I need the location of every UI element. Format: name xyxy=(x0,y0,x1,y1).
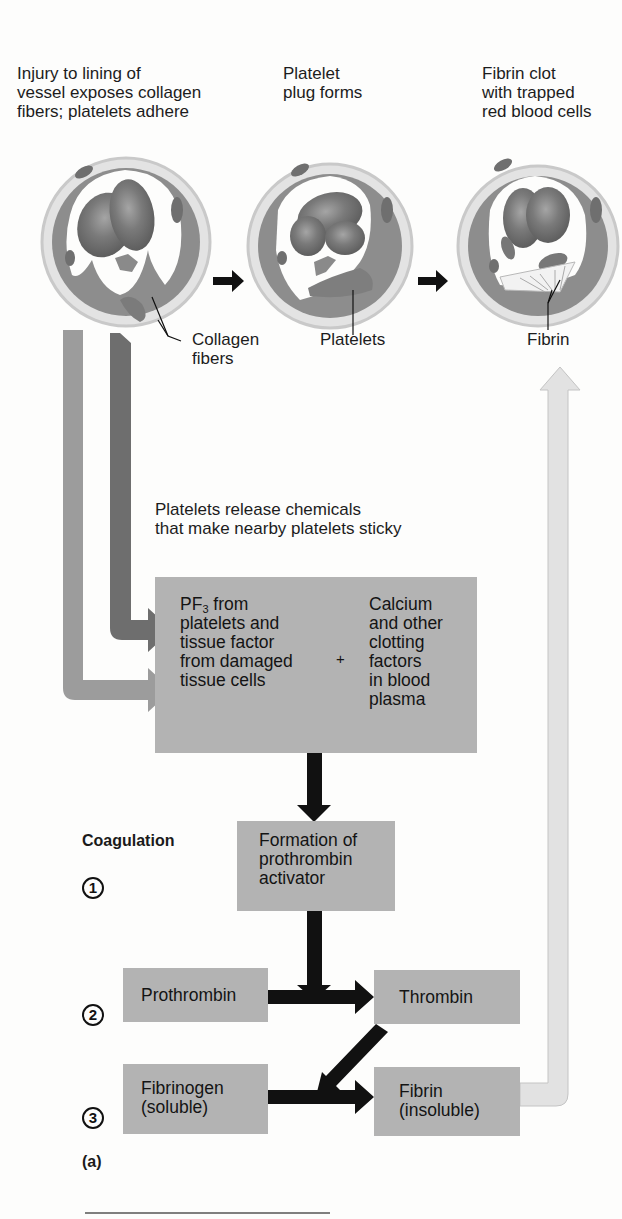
label-collagen-fibers: Collagen fibers xyxy=(192,330,259,368)
factors-line: factors xyxy=(369,652,443,671)
step-number-3: 3 xyxy=(82,1107,104,1129)
vessel-fibrin-clot-illustration xyxy=(458,156,618,326)
factors-line: platelets and xyxy=(180,614,293,633)
note-line: Platelets release chemicals xyxy=(155,500,402,519)
factors-line: plasma xyxy=(369,690,443,709)
factors-line: in blood xyxy=(369,671,443,690)
box-prothrombin: Prothrombin xyxy=(123,968,268,1022)
label-line: fibers xyxy=(192,349,259,368)
box-line: Prothrombin xyxy=(141,986,268,1005)
box-line: (insoluble) xyxy=(399,1101,520,1120)
arrow-factors-to-activator xyxy=(297,753,331,822)
pf-suffix: from xyxy=(209,594,249,614)
box-line: Formation of xyxy=(259,831,395,850)
box-line: Fibrin xyxy=(399,1082,520,1101)
caption-stage-platelet-plug: Platelet plug forms xyxy=(283,64,362,102)
box-thrombin: Thrombin xyxy=(374,970,520,1024)
factors-line: tissue factor xyxy=(180,633,293,652)
box-line: activator xyxy=(259,869,395,888)
label-line: Collagen xyxy=(192,330,259,349)
pf3-line: PF3 from xyxy=(180,595,293,614)
vessel-injury-illustration xyxy=(42,158,210,326)
caption-line: plug forms xyxy=(283,83,362,102)
caption-line: fibers; platelets adhere xyxy=(17,102,201,121)
factors-box: PF3 from platelets and tissue factor fro… xyxy=(155,577,477,753)
step-number-1: 1 xyxy=(82,877,104,899)
factors-left-text: PF3 from platelets and tissue factor fro… xyxy=(180,595,293,690)
caption-stage-fibrin-clot: Fibrin clot with trapped red blood cells xyxy=(482,64,592,121)
caption-line: Injury to lining of xyxy=(17,64,201,83)
note-line: that make nearby platelets sticky xyxy=(155,519,402,538)
box-prothrombin-activator: Formation of prothrombin activator xyxy=(237,821,395,911)
box-line: (soluble) xyxy=(141,1098,268,1117)
factors-line: tissue cells xyxy=(180,671,293,690)
caption-line: Fibrin clot xyxy=(482,64,592,83)
factors-line: and other xyxy=(369,614,443,633)
panel-label: (a) xyxy=(82,1153,102,1171)
factors-right-text: Calcium and other clotting factors in bl… xyxy=(369,595,443,709)
label-fibrin: Fibrin xyxy=(527,330,570,349)
factors-line: Calcium xyxy=(369,595,443,614)
caption-line: Platelet xyxy=(283,64,362,83)
plus-sign: + xyxy=(336,649,345,668)
caption-stage-injury: Injury to lining of vessel exposes colla… xyxy=(17,64,201,121)
return-arrow-fibrin xyxy=(520,367,580,1106)
release-note: Platelets release chemicals that make ne… xyxy=(155,500,402,538)
caption-line: red blood cells xyxy=(482,102,592,121)
factors-line: clotting xyxy=(369,633,443,652)
label-platelets: Platelets xyxy=(320,330,385,349)
box-line: Thrombin xyxy=(399,988,520,1007)
caption-line: vessel exposes collagen xyxy=(17,83,201,102)
box-line: Fibrinogen xyxy=(141,1079,268,1098)
step-number-2: 2 xyxy=(82,1004,104,1026)
arrow-stage1-to-stage2 xyxy=(213,270,244,292)
arrow-stage2-to-stage3 xyxy=(418,270,448,292)
factors-line: from damaged xyxy=(180,652,293,671)
vessel-platelet-plug-illustration xyxy=(248,161,412,328)
arrow-activator-to-reaction xyxy=(297,911,331,1000)
box-line: prothrombin xyxy=(259,850,395,869)
pf-text: PF xyxy=(180,594,202,614)
box-fibrinogen: Fibrinogen (soluble) xyxy=(123,1064,268,1134)
coagulation-heading: Coagulation xyxy=(82,832,174,850)
caption-line: with trapped xyxy=(482,83,592,102)
box-fibrin: Fibrin (insoluble) xyxy=(374,1067,520,1136)
